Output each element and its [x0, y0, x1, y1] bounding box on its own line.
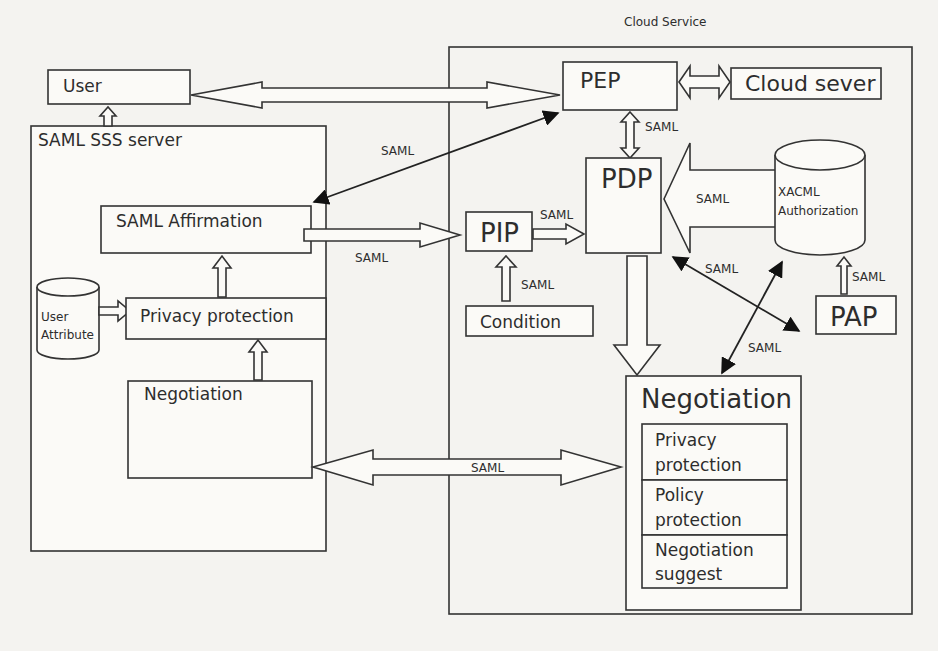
- privacy-protection-label: Privacy protection: [140, 306, 294, 326]
- sub-policy-label-2: protection: [655, 510, 742, 530]
- pdp-pap-label: SAML: [705, 262, 738, 276]
- sub-suggest-label-1: Negotiation: [655, 540, 754, 560]
- sub-privacy-label-2: protection: [655, 455, 742, 475]
- saml-sss-server-label: SAML SSS server: [38, 130, 182, 150]
- pap-xacml-label: SAML: [852, 270, 885, 284]
- server-pep-label: SAML: [381, 144, 414, 158]
- xacml-pdp-label: SAML: [696, 192, 729, 206]
- sub-policy-label-1: Policy: [655, 485, 704, 505]
- xacml-authorization-store: XACML Authorization: [775, 140, 865, 255]
- xacml-label-2: Authorization: [778, 204, 858, 218]
- saml-affirmation-label: SAML Affirmation: [116, 211, 263, 231]
- user-label: User: [63, 76, 102, 96]
- cloud-sever-label: Cloud sever: [745, 71, 876, 96]
- pdp-label: PDP: [601, 164, 652, 194]
- user-attribute-store: User Attribute: [37, 278, 99, 359]
- pap-negotiation-label: SAML: [748, 341, 781, 355]
- negotiation-right-label: Negotiation: [641, 384, 792, 414]
- pip-label: PIP: [480, 218, 519, 248]
- condition-label: Condition: [480, 312, 561, 332]
- pap-label: PAP: [830, 302, 877, 332]
- affirmation-pip-label: SAML: [355, 251, 388, 265]
- xacml-label-1: XACML: [778, 185, 820, 199]
- negotiation-link-label: SAML: [471, 461, 504, 475]
- condition-pip-label: SAML: [521, 278, 554, 292]
- cloud-service-label: Cloud Service: [624, 15, 706, 29]
- pep-pdp-label: SAML: [645, 120, 678, 134]
- pep-label: PEP: [580, 68, 620, 93]
- user-attribute-label-2: Attribute: [41, 328, 94, 342]
- user-attribute-label-1: User: [41, 310, 68, 324]
- pip-pdp-label: SAML: [540, 208, 573, 222]
- sub-suggest-label-2: suggest: [655, 564, 723, 584]
- access-control-diagram: Cloud Service SAML SSS server User PEP C…: [0, 0, 938, 651]
- sub-privacy-label-1: Privacy: [655, 430, 717, 450]
- negotiation-left-label: Negotiation: [144, 384, 243, 404]
